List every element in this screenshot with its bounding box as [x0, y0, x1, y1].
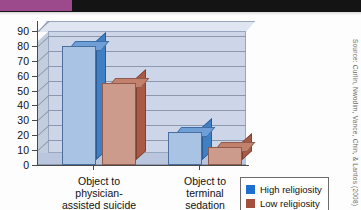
x-axis-category-label: Object tophysician-assisted suicide [39, 175, 159, 210]
y-axis-tick [32, 91, 38, 92]
side-gridline [38, 66, 50, 77]
bar-high-religiosity [62, 46, 96, 165]
bar-front-face [168, 132, 202, 165]
plot-area: 0102030405060708090 Object tophysician-a… [0, 15, 361, 210]
side-gridline [38, 110, 50, 121]
category-label-line: physician- [39, 187, 159, 199]
source-credit: Source: Curlin, Nwodim, Vance, Chin, & L… [352, 39, 359, 206]
y-axis-tick-label: 50 [0, 86, 29, 97]
bar-front-face [208, 147, 242, 165]
y-axis-tick-label: 40 [0, 100, 29, 111]
bar-front-face [62, 46, 96, 165]
x-axis-tick [93, 165, 94, 170]
y-axis-tick [32, 135, 38, 136]
y-axis-tick-label: 20 [0, 130, 29, 141]
side-gridline [38, 96, 50, 107]
page-edge-color-strip [0, 0, 72, 11]
y-axis-tick [32, 31, 38, 32]
y-axis-tick [32, 61, 38, 62]
y-axis-tick-label: 0 [0, 160, 29, 171]
side-gridline [38, 125, 50, 136]
y-axis-tick-label: 60 [0, 71, 29, 82]
y-axis-tick-label: 10 [0, 145, 29, 156]
chart-figure: 0102030405060708090 Object tophysician-a… [0, 0, 361, 210]
y-axis-tick [32, 150, 38, 151]
bar-low-religiosity [102, 83, 136, 165]
legend-item-high-religiosity: High religiosity [246, 182, 322, 196]
legend-label: Low religiosity [260, 198, 320, 209]
side-gridline [38, 81, 50, 92]
side-gridline [38, 140, 50, 151]
y-axis-tick-label: 30 [0, 115, 29, 126]
x-axis-tick [199, 165, 200, 170]
bar-low-religiosity [208, 147, 242, 165]
category-label-line: Object to [39, 175, 159, 187]
y-axis-tick [32, 46, 38, 47]
bar-front-face [102, 83, 136, 165]
side-gridlines [38, 21, 50, 166]
chart-legend: High religiosity Low religiosity [240, 177, 329, 210]
legend-label: High religiosity [260, 184, 322, 195]
side-gridline [38, 51, 50, 62]
y-axis-tick [32, 76, 38, 77]
gridline [48, 36, 246, 37]
bar-high-religiosity [168, 132, 202, 165]
y-axis-tick-label: 90 [0, 26, 29, 37]
side-gridline [38, 21, 50, 32]
y-axis-tick-label: 70 [0, 56, 29, 67]
side-gridline [38, 36, 50, 47]
legend-swatch-icon [246, 185, 255, 194]
y-axis-tick-label: 80 [0, 41, 29, 52]
category-label-line: assisted suicide [39, 199, 159, 210]
y-axis-line [37, 21, 38, 165]
y-axis-tick [32, 105, 38, 106]
legend-swatch-icon [246, 199, 255, 208]
y-axis-tick [32, 120, 38, 121]
legend-item-low-religiosity: Low religiosity [246, 196, 322, 210]
x-axis-line [37, 165, 249, 166]
y-axis-tick [32, 165, 38, 166]
